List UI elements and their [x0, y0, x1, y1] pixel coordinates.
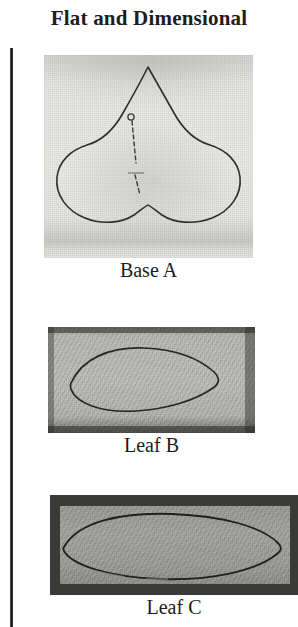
photo-base-a [44, 55, 253, 258]
figure-base-a: Base A [44, 55, 253, 258]
caption-base-a: Base A [44, 259, 253, 282]
fabric-weave-texture [60, 506, 290, 584]
fabric-speckle-texture [60, 506, 290, 584]
trefoil-outline-icon [44, 55, 253, 258]
figure-leaf-c: Leaf C [50, 495, 298, 595]
left-vertical-rule [10, 48, 13, 627]
caption-leaf-c: Leaf C [50, 596, 298, 619]
page-title: Flat and Dimensional [0, 6, 298, 31]
photo-leaf-b [48, 327, 255, 433]
fabric-weave-texture [48, 327, 255, 433]
fabric-weave-texture [44, 55, 253, 258]
photo-leaf-c [50, 495, 298, 595]
fabric-speckle-texture [48, 327, 255, 433]
fabric-shading [44, 55, 253, 258]
fabric-inner-field [60, 506, 290, 584]
frayed-edge-overlay [48, 327, 255, 433]
figure-leaf-b: Leaf B [48, 327, 255, 433]
caption-leaf-b: Leaf B [48, 434, 255, 457]
leaf-outline-icon [48, 327, 255, 433]
